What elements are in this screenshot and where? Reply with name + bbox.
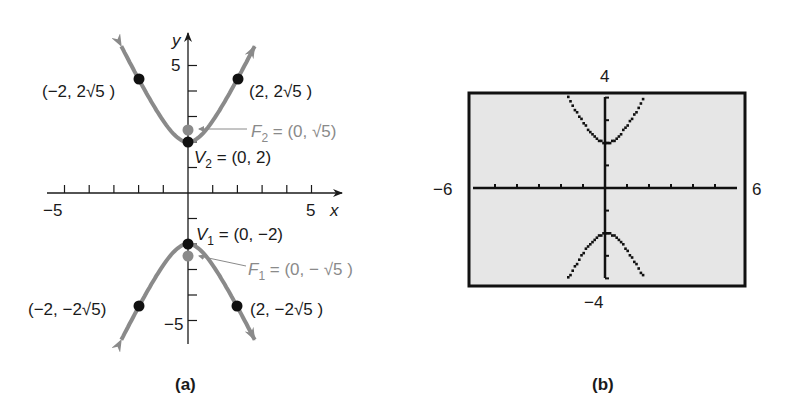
figure-canvas: −5 5 x y 5 −5 (−2, 2√5 ) (2, 2√5 ) (−2, … — [0, 0, 794, 418]
b-curve-pixel — [635, 111, 638, 114]
b-curve-pixel — [578, 258, 581, 261]
label-neg2-neg2root5: (−2, −2√5) — [28, 300, 106, 319]
b-curve-pixel — [635, 263, 638, 266]
b-curve-pixel — [569, 274, 572, 277]
vertex-1-label: V1 = (0, −2) — [196, 225, 283, 248]
panel-a-caption: (a) — [175, 375, 196, 394]
b-curve-pixel — [567, 96, 570, 99]
window-xmax-label: 6 — [752, 180, 761, 199]
window-xmin-label: −6 — [433, 180, 452, 199]
b-curve-pixel — [642, 274, 645, 277]
focus-1-leader-line — [199, 256, 246, 266]
focus-2-label: F2 = (0, √5) — [251, 122, 336, 145]
b-curve-pixel — [622, 243, 625, 246]
b-curve-pixel — [637, 267, 640, 270]
point-pos2-pos2root5 — [233, 74, 244, 85]
b-curve-pixel — [585, 124, 588, 127]
y-axis-label: y — [171, 31, 182, 50]
panel-b-caption: (b) — [592, 375, 614, 394]
b-curve-pixel — [580, 118, 583, 121]
b-curve-pixel — [640, 102, 643, 105]
b-curve-pixel — [569, 100, 572, 103]
y-tick-label-min: −5 — [164, 315, 183, 334]
b-curve-pixel — [631, 118, 634, 121]
x-axis-label: x — [329, 201, 339, 220]
window-ymax-label: 4 — [600, 67, 609, 86]
point-neg2-neg2root5 — [134, 301, 145, 312]
x-tick-label-max: 5 — [306, 201, 315, 220]
point-neg2-pos2root5 — [134, 74, 145, 85]
b-curve-pixel — [631, 256, 634, 259]
y-tick-label-max: 5 — [171, 56, 180, 75]
b-curve-pixel — [576, 111, 579, 114]
vertex-2-point — [183, 137, 194, 148]
b-curve-pixel — [642, 98, 645, 101]
b-curve-pixel — [571, 269, 574, 272]
b-curve-pixel — [626, 124, 629, 127]
focus-2-point — [183, 125, 194, 136]
panel-b-calculator-screen: 4 −4 −6 6 (b) — [433, 67, 761, 394]
label-neg2-pos2root5: (−2, 2√5 ) — [42, 82, 115, 101]
panel-a-chart: −5 5 x y 5 −5 (−2, 2√5 ) (2, 2√5 ) (−2, … — [28, 31, 353, 394]
b-curve-pixel — [582, 252, 585, 255]
label-pos2-neg2root5: (2, −2√5 ) — [250, 300, 323, 319]
vertex-2-label: V2 = (0, 2) — [194, 148, 271, 171]
b-curve-pixel — [626, 250, 629, 253]
calculator-window — [469, 93, 745, 286]
b-curve-pixel — [620, 133, 623, 136]
focus-1-point — [183, 251, 194, 262]
b-curve-pixel — [571, 104, 574, 107]
focus-1-label: F1 = (0, − √5 ) — [248, 260, 353, 283]
b-curve-pixel — [576, 263, 579, 266]
b-curve-pixel — [637, 107, 640, 110]
label-pos2-pos2root5: (2, 2√5 ) — [249, 82, 312, 101]
point-pos2-neg2root5 — [232, 301, 243, 312]
vertex-1-point — [183, 239, 194, 250]
x-tick-label-min: −5 — [43, 201, 62, 220]
window-ymin-label: −4 — [584, 293, 603, 312]
